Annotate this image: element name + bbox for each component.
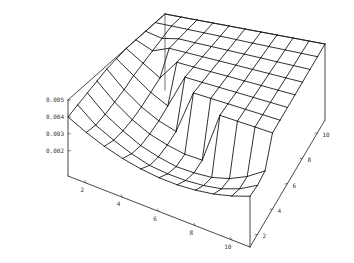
mesh-line bbox=[230, 121, 238, 178]
mesh-line bbox=[188, 29, 204, 32]
mesh-line bbox=[150, 157, 159, 166]
mesh-line bbox=[237, 121, 255, 127]
mesh-line bbox=[194, 57, 203, 67]
mesh-line bbox=[295, 82, 303, 95]
mesh-line bbox=[240, 177, 248, 189]
mesh-line bbox=[136, 40, 153, 51]
mesh-line bbox=[285, 50, 301, 53]
mesh-line bbox=[123, 154, 132, 159]
mesh-line bbox=[244, 43, 252, 54]
mesh-line bbox=[278, 90, 295, 95]
mesh-line bbox=[269, 47, 285, 50]
mesh-line bbox=[253, 32, 261, 43]
mesh-line bbox=[265, 133, 273, 171]
mesh-line bbox=[194, 160, 202, 173]
mesh-line bbox=[132, 154, 150, 166]
y-tick-label: 2 bbox=[263, 232, 267, 239]
mesh-line bbox=[172, 17, 182, 26]
mesh-line bbox=[150, 121, 159, 134]
z-tick-label: 0.003 bbox=[46, 130, 64, 137]
mesh-line bbox=[141, 165, 150, 169]
x-axis: 246810 bbox=[80, 181, 231, 250]
mesh-line bbox=[104, 140, 113, 146]
mesh-line bbox=[162, 26, 172, 38]
mesh-line bbox=[141, 107, 158, 121]
mesh-line bbox=[159, 174, 168, 178]
mesh-line bbox=[159, 121, 176, 132]
mesh-line bbox=[179, 29, 188, 38]
mesh-line bbox=[126, 48, 143, 63]
mesh-line bbox=[153, 48, 170, 51]
mesh-line bbox=[261, 74, 269, 86]
mesh-line bbox=[318, 44, 326, 57]
mesh-line bbox=[253, 69, 270, 73]
mesh-line bbox=[263, 115, 280, 121]
mesh-line bbox=[177, 185, 195, 190]
mesh-line bbox=[179, 39, 195, 43]
mesh-line bbox=[204, 33, 220, 36]
mesh-line bbox=[186, 53, 203, 57]
mesh-line bbox=[269, 35, 277, 47]
mesh-line bbox=[202, 82, 219, 87]
mesh-line bbox=[204, 186, 222, 189]
mesh-line bbox=[168, 167, 177, 174]
mesh-line bbox=[195, 190, 213, 194]
mesh-line bbox=[236, 54, 244, 65]
z-tick-label: 0.002 bbox=[46, 147, 64, 154]
x-tick-label: 2 bbox=[80, 186, 84, 193]
mesh-line bbox=[237, 109, 245, 121]
mesh-line bbox=[228, 76, 245, 81]
mesh-line bbox=[245, 29, 261, 32]
mesh-line bbox=[134, 76, 151, 93]
mesh-line bbox=[181, 17, 197, 20]
mesh-line bbox=[310, 57, 318, 70]
mesh-line bbox=[211, 72, 228, 77]
mesh-line bbox=[97, 69, 107, 81]
x-tick-label: 4 bbox=[117, 200, 121, 207]
mesh-line bbox=[132, 120, 150, 134]
mesh-line bbox=[195, 43, 212, 47]
mesh-line bbox=[261, 58, 277, 62]
mesh-line bbox=[123, 120, 132, 131]
mesh-line bbox=[309, 41, 325, 44]
mesh-line bbox=[229, 26, 245, 29]
mesh-line bbox=[278, 78, 286, 90]
mesh-line bbox=[255, 115, 263, 127]
mesh-line bbox=[203, 47, 212, 57]
mesh-line bbox=[141, 92, 150, 107]
mesh-line bbox=[195, 186, 203, 191]
mesh-line bbox=[261, 32, 277, 35]
mesh-line bbox=[159, 178, 177, 185]
mesh-line bbox=[126, 40, 136, 49]
mesh-line bbox=[219, 76, 227, 87]
mesh-line bbox=[177, 181, 185, 185]
mesh-line bbox=[107, 69, 124, 90]
mesh-line bbox=[288, 95, 296, 108]
mesh-line bbox=[68, 117, 86, 132]
mesh-line bbox=[114, 140, 132, 154]
mesh-line bbox=[115, 90, 125, 102]
mesh-line bbox=[136, 31, 146, 40]
mesh-line bbox=[285, 38, 293, 50]
mesh-line bbox=[197, 20, 213, 23]
x-tick-label: 10 bbox=[224, 243, 232, 250]
mesh-line bbox=[151, 92, 168, 106]
mesh-line bbox=[211, 61, 220, 72]
mesh-line bbox=[146, 31, 162, 38]
mesh-line bbox=[301, 53, 317, 56]
mesh-line bbox=[261, 47, 269, 58]
mesh-line bbox=[141, 134, 150, 146]
mesh-line bbox=[253, 58, 261, 70]
mesh-line bbox=[293, 38, 309, 41]
mesh-line bbox=[253, 43, 269, 46]
mesh-line bbox=[277, 50, 285, 62]
mesh-line bbox=[153, 38, 162, 50]
mesh-line bbox=[194, 173, 212, 178]
mesh-line bbox=[236, 92, 253, 97]
mesh-line bbox=[150, 165, 168, 173]
mesh-line bbox=[158, 145, 167, 157]
mesh-line bbox=[68, 105, 78, 117]
mesh-line bbox=[193, 82, 202, 93]
mesh-line bbox=[253, 97, 270, 102]
mesh-line bbox=[211, 47, 227, 51]
